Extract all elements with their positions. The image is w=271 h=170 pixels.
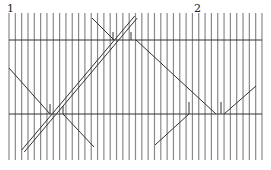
track-diagram: 1 2 (0, 0, 271, 170)
label-2: 2 (194, 2, 201, 15)
diagonal-segment (224, 86, 256, 114)
label-1: 1 (7, 2, 14, 15)
diagonal-segments (9, 18, 256, 147)
vertical-grid-lines (9, 13, 262, 160)
diagonal-segment (155, 114, 189, 145)
